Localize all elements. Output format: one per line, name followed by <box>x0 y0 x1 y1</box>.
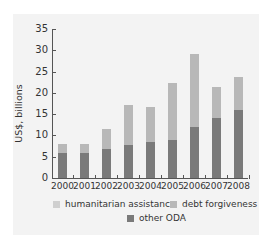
y-tick-label: 20 <box>28 88 48 98</box>
bar-segment-other-oda <box>124 145 133 178</box>
legend-label: other ODA <box>139 213 186 223</box>
y-tick-label: 5 <box>28 152 48 162</box>
x-tick-label: 2007 <box>205 181 229 191</box>
x-tick-label: 2001 <box>73 181 97 191</box>
bar-segment-other-oda <box>234 110 243 178</box>
legend-item-humanitarian: humanitarian assistance <box>53 199 176 209</box>
y-tick-label: 15 <box>28 109 48 119</box>
bar-segment-debt-forgiveness <box>80 144 89 153</box>
legend-label: debt forgiveness <box>182 199 257 209</box>
x-tick-label: 2003 <box>117 181 141 191</box>
bar-segment-other-oda <box>80 153 89 178</box>
y-tick-label: 10 <box>28 130 48 140</box>
bar-segment-debt-forgiveness <box>146 107 155 142</box>
x-tick-label: 2004 <box>139 181 163 191</box>
x-tick-label: 2002 <box>95 181 119 191</box>
bar-segment-debt-forgiveness <box>124 105 133 145</box>
bar-segment-other-oda <box>168 140 177 178</box>
x-tick <box>249 175 250 179</box>
humanitarian-swatch <box>53 201 60 208</box>
y-axis <box>52 29 53 179</box>
y-tick-label: 25 <box>28 67 48 77</box>
other-swatch <box>127 215 134 222</box>
y-tick-label: 30 <box>28 45 48 55</box>
y-axis-label: US$, billions <box>13 84 24 144</box>
legend-item-debt: debt forgiveness <box>170 199 257 209</box>
bar-segment-debt-forgiveness <box>212 87 221 118</box>
legend-item-other: other ODA <box>127 213 186 223</box>
x-tick-label: 2005 <box>161 181 185 191</box>
bar-segment-debt-forgiveness <box>168 83 177 140</box>
x-tick-label: 2008 <box>227 181 251 191</box>
bar-segment-other-oda <box>212 118 221 178</box>
bar-segment-debt-forgiveness <box>58 144 67 153</box>
bar-segment-other-oda <box>102 149 111 178</box>
x-axis <box>52 178 248 179</box>
bar-segment-debt-forgiveness <box>190 54 199 127</box>
bar-segment-other-oda <box>190 127 199 178</box>
legend-label: humanitarian assistance <box>65 199 176 209</box>
y-tick-label: 35 <box>28 24 48 34</box>
y-tick-label: 0 <box>28 173 48 183</box>
bar-segment-other-oda <box>146 142 155 178</box>
x-tick-label: 2006 <box>183 181 207 191</box>
x-tick-label: 2000 <box>51 181 75 191</box>
bar-segment-debt-forgiveness <box>234 77 243 110</box>
bar-segment-debt-forgiveness <box>102 129 111 149</box>
debt-swatch <box>170 201 177 208</box>
bar-segment-other-oda <box>58 152 67 178</box>
